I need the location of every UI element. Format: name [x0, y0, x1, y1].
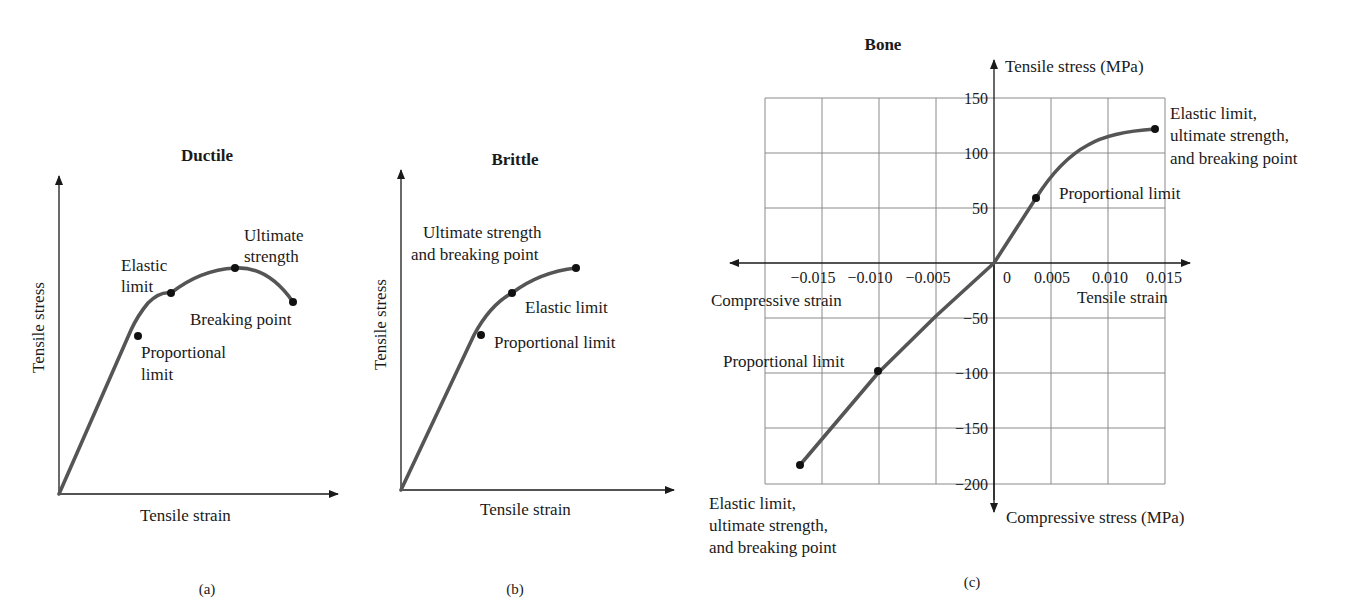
tensile-elastic-limit-label-3: and breaking point — [1170, 149, 1298, 168]
x-tick: −0.015 — [790, 269, 835, 286]
compressive-strain-label: Compressive strain — [711, 291, 842, 310]
y-tick: 150 — [964, 90, 988, 107]
ultimate-strength-point — [231, 264, 239, 272]
x-tick: 0 — [1003, 269, 1011, 286]
proportional-limit-point — [477, 331, 485, 339]
compressive-elastic-limit-label-2: ultimate strength, — [709, 516, 828, 535]
tensile-breaking-point — [1151, 125, 1159, 133]
x-tick: 0.015 — [1146, 269, 1182, 286]
tensile-proportional-limit-label: Proportional limit — [1059, 184, 1181, 203]
ultimate-strength-label-2: strength — [244, 247, 299, 266]
compressive-stress-label: Compressive stress (MPa) — [1006, 508, 1184, 527]
compressive-breaking-point — [796, 461, 804, 469]
compressive-proportional-limit-point — [874, 367, 882, 375]
y-tick: −200 — [955, 476, 988, 493]
ultimate-breaking-point — [572, 264, 580, 272]
y-tick: 50 — [972, 200, 988, 217]
proportional-limit-point — [134, 332, 142, 340]
proportional-limit-label-2: limit — [141, 365, 173, 384]
brittle-title: Brittle — [491, 150, 539, 169]
caption-c: (c) — [964, 574, 981, 591]
caption-a: (a) — [199, 581, 216, 598]
panel-ductile: Ductile Tensile stress Tensile strain El… — [29, 146, 338, 598]
tensile-elastic-limit-label-2: ultimate strength, — [1170, 126, 1289, 145]
tensile-elastic-limit-label: Elastic limit, — [1170, 104, 1257, 123]
elastic-limit-label-2: limit — [121, 277, 153, 296]
bone-title: Bone — [865, 35, 902, 54]
y-tick: −100 — [955, 365, 988, 382]
ultimate-strength-label: Ultimate — [244, 226, 303, 245]
x-tick: 0.005 — [1034, 269, 1070, 286]
x-tick: 0.010 — [1092, 269, 1128, 286]
elastic-limit-label: Elastic — [121, 256, 168, 275]
panel-bone: Bone Tensile stress (MPa) Compressive st… — [709, 35, 1298, 591]
y-axis-label: Tensile stress — [371, 279, 390, 370]
ultimate-breaking-label: Ultimate strength — [423, 223, 542, 242]
y-axis-label: Tensile stress — [29, 282, 48, 373]
x-tick: −0.005 — [905, 269, 950, 286]
x-axis-label: Tensile strain — [480, 500, 571, 519]
tensile-stress-label: Tensile stress (MPa) — [1005, 57, 1144, 76]
compressive-elastic-limit-label: Elastic limit, — [709, 494, 796, 513]
breaking-point — [289, 298, 297, 306]
breaking-point-label: Breaking point — [190, 310, 292, 329]
stress-strain-figure: Ductile Tensile stress Tensile strain El… — [0, 0, 1359, 614]
x-tick: −0.010 — [847, 269, 892, 286]
ultimate-breaking-label-2: and breaking point — [411, 245, 539, 264]
caption-b: (b) — [506, 581, 524, 598]
y-tick: 100 — [964, 145, 988, 162]
tensile-strain-label: Tensile strain — [1077, 288, 1168, 307]
y-tick: −150 — [955, 420, 988, 437]
x-axis-label: Tensile strain — [140, 506, 231, 525]
ductile-title: Ductile — [181, 146, 233, 165]
panel-brittle: Brittle Tensile stress Tensile strain Ul… — [371, 150, 674, 598]
ductile-curve — [59, 268, 293, 494]
proportional-limit-label: Proportional limit — [494, 333, 616, 352]
y-tick: −50 — [963, 310, 988, 327]
elastic-limit-point — [167, 289, 175, 297]
elastic-limit-label: Elastic limit — [525, 298, 608, 317]
compressive-proportional-limit-label: Proportional limit — [723, 352, 845, 371]
compressive-elastic-limit-label-3: and breaking point — [709, 538, 837, 557]
proportional-limit-label: Proportional — [141, 343, 226, 362]
tensile-proportional-limit-point — [1032, 194, 1040, 202]
elastic-limit-point — [508, 289, 516, 297]
